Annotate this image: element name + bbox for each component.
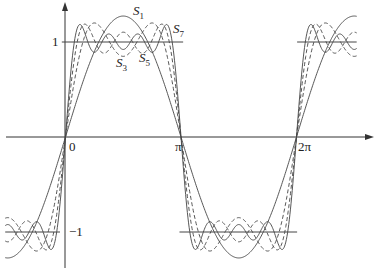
series-label-s7-sub: 7 xyxy=(180,29,185,39)
tick-label-0: 0 xyxy=(69,140,76,153)
series-label-s1: S1 xyxy=(133,4,144,21)
tick-label-pi: π xyxy=(175,140,182,153)
x-axis-arrow-icon xyxy=(365,134,374,140)
series-label-s1-sub: 1 xyxy=(140,11,145,21)
series-label-s5-sub: 5 xyxy=(146,58,151,68)
y-axis-arrow-icon xyxy=(62,2,68,11)
series-label-s7: S7 xyxy=(173,22,184,39)
series-label-s3-sub: 3 xyxy=(123,63,128,73)
series-label-s5: S5 xyxy=(139,51,150,68)
series-label-s3: S3 xyxy=(116,56,127,73)
tick-label-2pi: 2π xyxy=(298,140,311,153)
tick-label-y1: 1 xyxy=(52,35,59,48)
tick-label-ym1: −1 xyxy=(69,225,83,238)
